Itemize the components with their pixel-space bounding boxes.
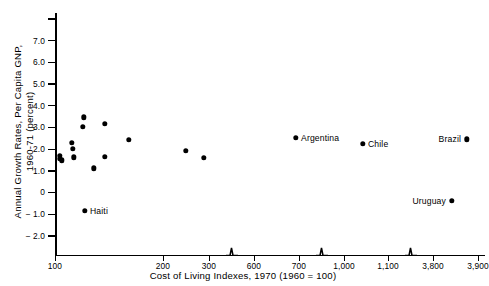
y-axis-tick xyxy=(48,127,55,128)
y-axis-tick xyxy=(48,170,55,171)
data-point-label-uruguay: Uruguay xyxy=(0,197,446,206)
x-axis-line xyxy=(55,255,485,257)
y-axis-tick xyxy=(48,18,55,19)
y-axis-title-line-2: 1960-71 (percent) xyxy=(23,17,35,247)
data-point[interactable] xyxy=(183,148,188,153)
data-point[interactable] xyxy=(102,154,107,159)
x-axis-tick xyxy=(209,255,210,261)
axis-break-icon xyxy=(316,247,328,256)
x-axis-tick xyxy=(55,255,56,261)
x-axis-tick xyxy=(433,255,434,261)
y-axis-tick xyxy=(48,83,55,84)
y-axis-tick xyxy=(48,105,55,106)
x-axis-tick-label: 3,900 xyxy=(467,262,488,270)
data-point[interactable] xyxy=(80,124,85,129)
data-point-haiti[interactable] xyxy=(82,208,87,213)
y-axis-tick xyxy=(48,40,55,41)
y-axis-tick xyxy=(48,62,55,63)
data-point-uruguay[interactable] xyxy=(449,198,454,203)
y-axis-tick xyxy=(48,235,55,236)
axis-break-icon xyxy=(405,247,417,256)
x-axis-tick xyxy=(299,255,300,261)
data-point-label-haiti: Haiti xyxy=(90,207,108,216)
axis-break-icon xyxy=(226,247,238,256)
x-axis-title: Cost of Living Indexes, 1970 (1960 = 100… xyxy=(0,271,486,281)
x-axis-tick xyxy=(163,255,164,261)
x-axis-tick xyxy=(344,255,345,261)
y-axis-tick xyxy=(48,214,55,215)
y-axis-title-line-1: Annual Growth Rates, Per Capita GNP, xyxy=(12,17,24,247)
data-point[interactable] xyxy=(91,166,96,171)
x-axis-tick-label: 1,000 xyxy=(333,262,354,270)
data-point[interactable] xyxy=(81,115,86,120)
x-axis-tick-label: 1,100 xyxy=(377,262,398,270)
x-axis-tick-label: 100 xyxy=(48,262,62,270)
data-point[interactable] xyxy=(70,146,75,151)
data-point-brazil[interactable] xyxy=(464,137,469,142)
y-axis-tick xyxy=(48,192,55,193)
y-axis-title: Annual Growth Rates, Per Capita GNP, 196… xyxy=(12,17,35,247)
y-axis-tick xyxy=(48,149,55,150)
data-point-label-brazil: Brazil xyxy=(0,135,461,144)
data-point[interactable] xyxy=(102,121,107,126)
x-axis-tick-label: 3,800 xyxy=(422,262,443,270)
x-axis-tick xyxy=(254,255,255,261)
data-point[interactable] xyxy=(201,155,206,160)
data-point[interactable] xyxy=(71,155,76,160)
data-point[interactable] xyxy=(59,158,64,163)
x-axis-tick xyxy=(388,255,389,261)
x-axis-tick xyxy=(478,255,479,261)
